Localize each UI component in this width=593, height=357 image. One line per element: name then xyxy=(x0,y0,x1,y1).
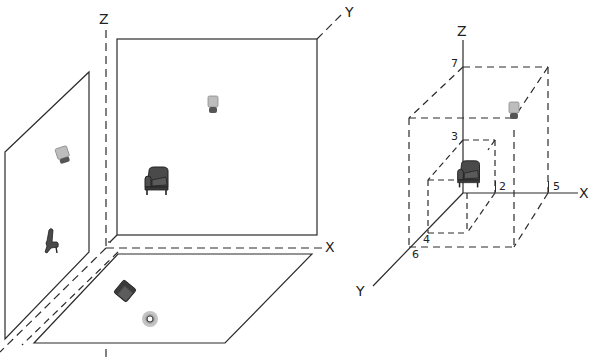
right-armchair-icon xyxy=(458,161,480,188)
xy-plane-lamp-top-icon xyxy=(142,311,158,327)
x-tick-2-mark xyxy=(495,181,496,192)
y-tick-6: 6 xyxy=(412,249,419,260)
x-tick-5-mark xyxy=(548,181,549,192)
right-y-axis-label: Y xyxy=(356,284,365,298)
y-tick-4: 4 xyxy=(423,234,430,245)
xy-plane xyxy=(34,254,312,343)
left-z-axis-label: Z xyxy=(99,12,109,26)
z-tick-3: 3 xyxy=(451,131,458,142)
x-tick-2: 2 xyxy=(499,181,506,192)
z-tick-7: 7 xyxy=(451,58,458,69)
diagram-canvas xyxy=(0,0,593,357)
right-z-axis-label: Z xyxy=(457,24,467,38)
right-y-axis xyxy=(373,193,463,286)
xz-plane xyxy=(117,39,317,235)
right-x-axis-label: X xyxy=(579,186,589,200)
left-y-axis-back xyxy=(317,14,342,39)
xz-plane-lamp-icon xyxy=(208,96,218,113)
left-diagram xyxy=(0,14,342,357)
x-tick-5: 5 xyxy=(553,181,560,192)
right-lamp-icon xyxy=(509,102,519,119)
left-y-axis-label: Y xyxy=(345,5,354,19)
left-x-axis-label: X xyxy=(325,240,335,254)
lamp-bounding-box xyxy=(409,67,548,247)
xz-plane-corner-edge xyxy=(110,235,117,242)
